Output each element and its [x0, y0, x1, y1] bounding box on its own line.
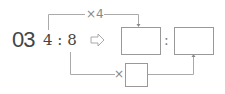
- bottom-operator: ×: [114, 67, 124, 81]
- answer-box-1[interactable]: [121, 27, 161, 55]
- answer-box-2[interactable]: [174, 27, 214, 55]
- multiplier-box[interactable]: [125, 63, 148, 87]
- problem-number: 03: [12, 28, 34, 52]
- top-operator: ×4: [86, 7, 104, 21]
- given-ratio: 4 : 8: [43, 31, 77, 49]
- answer-colon: :: [164, 32, 169, 48]
- right-arrow-icon: [91, 34, 104, 46]
